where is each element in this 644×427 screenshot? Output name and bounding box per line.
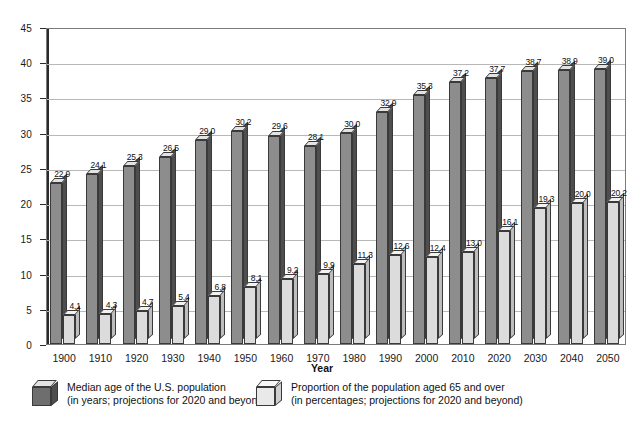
bar-front-face <box>571 203 583 344</box>
bar-front-face <box>376 112 388 344</box>
bar-proportion-65-1950 <box>244 287 256 344</box>
y-axis-tick-label: 20 <box>0 199 32 210</box>
bar-front-face <box>426 257 438 344</box>
bar-proportion-65-1940 <box>208 296 220 344</box>
bar-front-face <box>195 140 207 344</box>
bar-side-face <box>293 270 298 339</box>
chart-container: 051015202530354045 22.94.124.14.325.34.7… <box>0 0 644 427</box>
dark-cube-icon <box>32 380 58 406</box>
value-label-proportion-65-2030: 19.3 <box>539 194 555 204</box>
bar-proportion-65-1910 <box>99 314 111 344</box>
bar-front-face <box>50 183 62 344</box>
bar-median-age-1970 <box>304 146 316 344</box>
value-label-proportion-65-1980: 11.3 <box>358 250 373 260</box>
value-label-median-age-2000: 35.3 <box>417 81 433 91</box>
bar-median-age-2020 <box>485 78 497 344</box>
bar-median-age-1950 <box>231 131 243 344</box>
value-label-median-age-2040: 38.9 <box>562 56 578 66</box>
bar-side-face <box>474 243 479 339</box>
value-label-proportion-65-1970: 9.9 <box>323 260 334 270</box>
bar-front-face <box>244 287 256 344</box>
plot-area: 22.94.124.14.325.34.726.55.429.06.830.28… <box>46 28 626 345</box>
bar-median-age-1940 <box>195 140 207 344</box>
bar-side-face <box>365 255 370 339</box>
value-label-proportion-65-2000: 12.4 <box>430 243 446 253</box>
bar-front-face <box>208 296 220 344</box>
value-label-proportion-65-1960: 9.2 <box>287 265 298 275</box>
value-label-proportion-65-1990: 12.6 <box>394 241 410 251</box>
bar-side-face <box>619 192 624 339</box>
bar-proportion-65-2040 <box>571 203 583 344</box>
bar-median-age-2000 <box>413 95 425 344</box>
bar-front-face <box>485 78 497 344</box>
bar-median-age-2030 <box>521 71 533 344</box>
bar-front-face <box>534 208 546 344</box>
value-label-proportion-65-1910: 4.3 <box>106 300 117 310</box>
y-axis-tick-label: 40 <box>0 58 32 69</box>
legend-text-median-age: Median age of the U.S. population (in ye… <box>67 380 267 407</box>
bar-median-age-1990 <box>376 112 388 344</box>
bar-front-face <box>413 95 425 344</box>
value-label-median-age-2020: 37.7 <box>489 64 505 74</box>
bar-front-face <box>159 157 171 344</box>
bar-front-face <box>558 70 570 344</box>
y-axis-line <box>47 29 49 344</box>
value-label-median-age-2050: 39.0 <box>598 55 614 65</box>
y-axis-tick-label: 35 <box>0 93 32 104</box>
bar-side-face <box>401 246 406 339</box>
bar-front-face <box>86 174 98 344</box>
bar-proportion-65-1900 <box>63 315 75 344</box>
bar-front-face <box>268 136 280 345</box>
value-label-median-age-1960: 29.6 <box>272 121 288 131</box>
legend-text-proportion-65-over: Proportion of the population aged 65 and… <box>291 380 523 407</box>
bar-front-face <box>353 264 365 344</box>
value-label-median-age-1990: 32.9 <box>381 98 397 108</box>
bar-median-age-1900 <box>50 183 62 344</box>
bar-side-face <box>583 194 588 339</box>
bar-side-face <box>510 221 515 339</box>
bar-proportion-65-1980 <box>353 264 365 344</box>
bar-front-face <box>231 131 243 344</box>
bar-front-face <box>136 311 148 344</box>
chart-legend: Median age of the U.S. population (in ye… <box>0 378 644 423</box>
value-label-median-age-1920: 25.3 <box>127 152 143 162</box>
bar-median-age-1910 <box>86 174 98 344</box>
bar-front-face <box>63 315 75 344</box>
bar-median-age-1980 <box>340 133 352 344</box>
value-label-median-age-2030: 38.7 <box>526 57 542 67</box>
bar-proportion-65-1970 <box>317 274 329 344</box>
bar-median-age-1930 <box>159 157 171 344</box>
bar-front-face <box>123 166 135 344</box>
legend-line-2: (in years; projections for 2020 and beyo… <box>67 394 267 407</box>
bar-proportion-65-1920 <box>136 311 148 344</box>
value-label-median-age-1970: 28.1 <box>308 132 324 142</box>
value-label-median-age-1910: 24.1 <box>91 160 107 170</box>
bar-proportion-65-2050 <box>607 202 619 344</box>
bar-proportion-65-1990 <box>389 255 401 344</box>
y-axis-tick-label: 25 <box>0 163 32 174</box>
value-label-proportion-65-2040: 20.0 <box>575 189 591 199</box>
light-cube-icon <box>256 380 282 406</box>
bar-front-face <box>607 202 619 344</box>
value-label-median-age-1900: 22.9 <box>54 169 70 179</box>
legend-item-median-age: Median age of the U.S. population (in ye… <box>32 380 267 407</box>
bar-side-face <box>438 247 443 339</box>
value-label-median-age-1950: 30.2 <box>236 117 252 127</box>
bar-proportion-65-2000 <box>426 257 438 344</box>
bar-side-face <box>546 199 551 339</box>
bar-proportion-65-2020 <box>498 231 510 344</box>
x-axis-title: Year <box>0 362 644 374</box>
bar-front-face <box>172 306 184 344</box>
value-label-median-age-1980: 30.0 <box>344 119 360 129</box>
bar-front-face <box>304 146 316 344</box>
legend-line-2: (in percentages; projections for 2020 an… <box>291 394 523 407</box>
value-label-proportion-65-2050: 20.2 <box>611 188 627 198</box>
value-label-proportion-65-1930: 5.4 <box>178 292 189 302</box>
value-label-proportion-65-2010: 13.0 <box>466 238 482 248</box>
value-label-proportion-65-1950: 8.1 <box>251 273 262 283</box>
bar-front-face <box>317 274 329 344</box>
bar-side-face <box>329 265 334 339</box>
bar-front-face <box>462 252 474 344</box>
y-axis-tick-label: 0 <box>0 340 32 351</box>
bar-front-face <box>449 82 461 344</box>
